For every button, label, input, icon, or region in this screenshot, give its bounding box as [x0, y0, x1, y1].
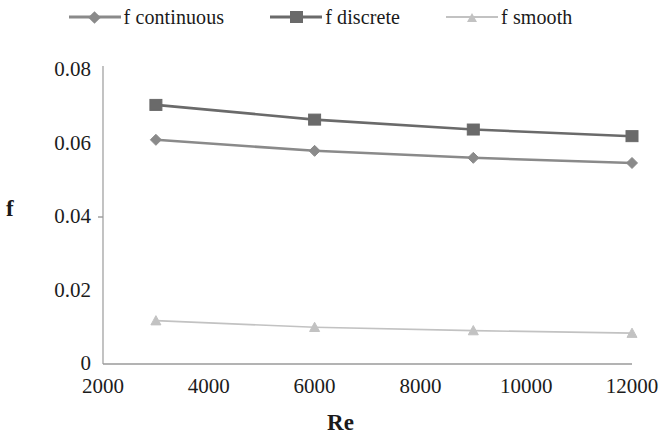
data-point	[309, 114, 321, 125]
y-axis-title: f	[6, 196, 14, 222]
series-f-smooth	[151, 316, 637, 338]
x-tick-label: 10000	[481, 374, 571, 399]
data-point	[627, 157, 638, 168]
y-tick-label: 0.06	[27, 131, 91, 156]
y-tick-label: 0.02	[27, 278, 91, 303]
axis-layer	[98, 66, 632, 364]
x-tick-label: 8000	[375, 374, 465, 399]
x-tick-label: 4000	[164, 374, 254, 399]
series-f-continuous	[150, 134, 637, 168]
data-point	[467, 124, 479, 135]
data-point	[150, 99, 162, 110]
x-tick-label: 2000	[58, 374, 148, 399]
y-tick-label: 0.04	[27, 204, 91, 229]
y-tick-label: 0	[27, 351, 91, 376]
series-layer	[150, 99, 638, 337]
data-point	[468, 152, 479, 163]
x-axis-title: Re	[0, 410, 641, 436]
y-tick-label: 0.08	[27, 57, 91, 82]
data-point	[150, 134, 161, 145]
x-tick-label: 6000	[270, 374, 360, 399]
data-point	[626, 131, 638, 142]
data-point	[309, 145, 320, 156]
x-tick-label: 12000	[587, 374, 663, 399]
series-f-discrete	[150, 99, 638, 141]
